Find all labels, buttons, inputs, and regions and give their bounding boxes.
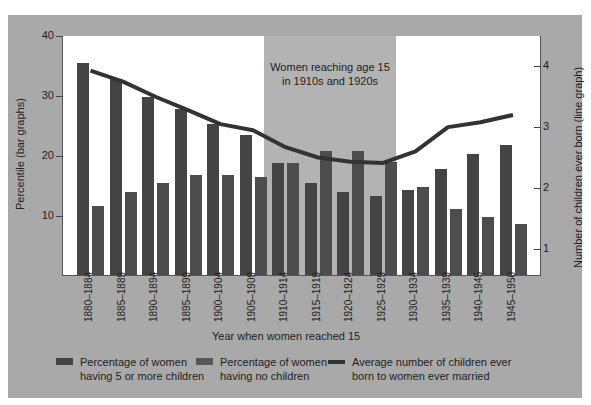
y-axis-title: Percentile (bar graphs) [14,98,26,210]
legend-no-children: Percentage of women having no children [196,355,327,383]
legend-text: having no children [220,369,327,383]
x-tick-label: 1890–1894 [148,272,159,322]
x-tick-label: 1885–1889 [116,272,127,322]
x-tick-label: 1895–1899 [181,272,192,322]
legend-text: Percentage of women [220,355,327,369]
avg-children-line [91,71,514,163]
line-series [63,36,542,276]
y-tick-label: 10 [34,209,54,221]
x-tick-label: 1900–1904 [213,272,224,322]
y-tick-label: 20 [34,149,54,161]
legend-avg-children: Average number of children ever born to … [328,355,511,383]
y2-axis-title: Number of children ever born (line graph… [572,67,584,268]
legend-text: Average number of children ever [352,355,511,369]
legend-text: Percentage of women [80,355,204,369]
x-tick-label: 1945–1950 [506,272,517,322]
y2-tick-mark [534,66,541,67]
y2-tick-mark [534,249,541,250]
y2-tick-label: 3 [543,120,563,132]
plot-area: Women reaching age 15 in 1910s and 1920s [62,36,541,276]
legend-text: born to women ever married [352,369,511,383]
x-tick-label: 1910–1914 [278,272,289,322]
x-tick-label: 1925–1929 [376,272,387,322]
x-tick-label: 1915–1919 [311,272,322,322]
legend-text: having 5 or more children [80,369,204,383]
y-tick-mark [56,96,63,97]
y-tick-label: 30 [34,89,54,101]
y2-tick-label: 1 [543,242,563,254]
y2-tick-label: 2 [543,181,563,193]
x-tick-label: 1920–1924 [343,272,354,322]
y-tick-mark [56,156,63,157]
y2-tick-mark [534,188,541,189]
legend-five-plus: Percentage of women having 5 or more chi… [56,355,204,383]
x-tick-label: 1940–1945 [473,272,484,322]
x-axis-title: Year when women reached 15 [212,330,360,342]
legend-swatch-line [328,360,345,364]
x-tick-label: 1905–1909 [246,272,257,322]
y-tick-mark [56,36,63,37]
x-tick-label: 1935–1939 [441,272,452,322]
legend-swatch-five-plus [56,358,73,365]
y2-tick-label: 4 [543,59,563,71]
y-tick-mark [56,216,63,217]
legend-swatch-no-children [196,358,213,365]
x-tick-label: 1930–1934 [408,272,419,322]
y-tick-label: 40 [34,29,54,41]
x-tick-label: 1880–1884 [83,272,94,322]
y2-tick-mark [534,127,541,128]
